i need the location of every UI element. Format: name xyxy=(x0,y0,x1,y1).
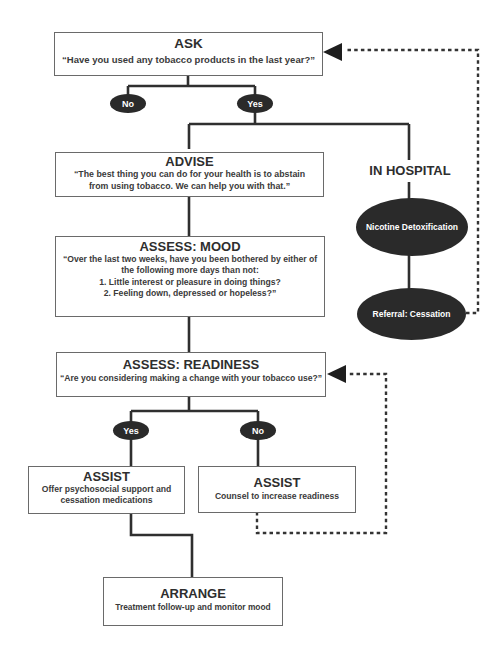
advise-box: ADVISE “The best thing you can do for yo… xyxy=(55,152,324,197)
yes-to-split-connector xyxy=(189,106,409,149)
in-hospital-title: IN HOSPITAL xyxy=(362,163,458,178)
assess-mood-box: ASSESS: MOOD “Over the last two weeks, h… xyxy=(55,236,325,317)
arrange-box: ARRANGE Treatment follow-up and monitor … xyxy=(103,577,283,626)
arrowhead-ask xyxy=(323,43,342,61)
assist-arrange-connector xyxy=(131,513,192,578)
assess-readiness-title: ASSESS: READINESS xyxy=(57,358,325,372)
readiness-yes-oval: Yes xyxy=(113,421,149,440)
arrowhead-readiness xyxy=(327,365,346,383)
arrange-line-1: Treatment follow-up and monitor mood xyxy=(104,602,282,613)
ask-yes-label: Yes xyxy=(247,99,263,109)
assist-no-title: ASSIST xyxy=(199,476,355,490)
readiness-no-label: No xyxy=(252,426,264,436)
assess-mood-line-2: the following more days than not: xyxy=(56,265,324,276)
assist-no-box: ASSIST Counsel to increase readiness xyxy=(198,466,356,513)
assess-mood-line-3: 1. Little interest or pleasure in doing … xyxy=(56,277,324,288)
advise-line-1: “The best thing you can do for your heal… xyxy=(56,169,323,180)
advise-title: ADVISE xyxy=(56,155,323,169)
assess-mood-title: ASSESS: MOOD xyxy=(56,240,324,254)
ask-title: ASK xyxy=(55,37,322,52)
ask-question: “Have you used any tobacco products in t… xyxy=(55,54,322,66)
nicotine-detox-label: Nicotine Detoxification xyxy=(366,222,458,232)
readiness-no-oval: No xyxy=(240,421,276,440)
ask-yes-oval: Yes xyxy=(237,94,273,113)
assess-mood-line-4: 2. Feeling down, depressed or hopeless?” xyxy=(56,288,324,299)
nicotine-detox-oval: Nicotine Detoxification xyxy=(356,198,468,256)
advise-line-2: from using tobacco. We can help you with… xyxy=(56,181,323,192)
arrange-title: ARRANGE xyxy=(104,587,282,601)
hospital-return-dotted xyxy=(345,50,478,313)
assist-yes-box: ASSIST Offer psychosocial support and ce… xyxy=(28,466,185,514)
readiness-yes-label: Yes xyxy=(123,426,139,436)
ask-no-oval: No xyxy=(110,94,146,113)
assist-yes-title: ASSIST xyxy=(29,470,184,484)
assist-no-line-1: Counsel to increase readiness xyxy=(199,491,355,502)
assist-yes-line-2: cessation medications xyxy=(29,495,184,506)
assess-readiness-box: ASSESS: READINESS “Are you considering m… xyxy=(56,352,326,397)
ask-branch-connector xyxy=(128,75,255,100)
readiness-branch-connector xyxy=(131,396,258,466)
ask-box: ASK “Have you used any tobacco products … xyxy=(54,32,323,76)
assess-readiness-question: “Are you considering making a change wit… xyxy=(57,373,325,384)
assess-mood-line-1: “Over the last two weeks, have you been … xyxy=(56,254,324,265)
referral-cessation-label: Referral: Cessation xyxy=(373,309,451,319)
ask-no-label: No xyxy=(122,99,134,109)
referral-cessation-oval: Referral: Cessation xyxy=(357,288,466,340)
assist-yes-line-1: Offer psychosocial support and xyxy=(29,484,184,495)
